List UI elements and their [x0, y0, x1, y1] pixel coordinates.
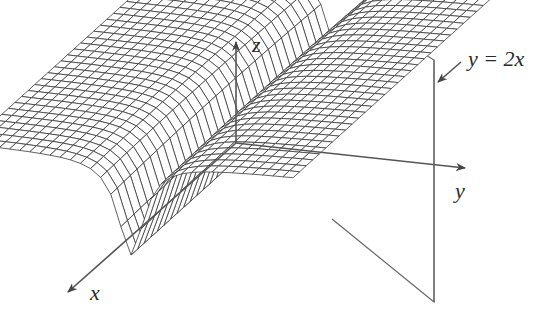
x-axis-label: x [89, 280, 100, 305]
y-axis-label: y [453, 178, 465, 203]
z-axis-label: z [251, 32, 261, 57]
plane-label: y = 2x [466, 46, 525, 71]
surface-figure: z y x y = 2x [0, 0, 539, 318]
plane-pointer-arrow [438, 62, 461, 82]
